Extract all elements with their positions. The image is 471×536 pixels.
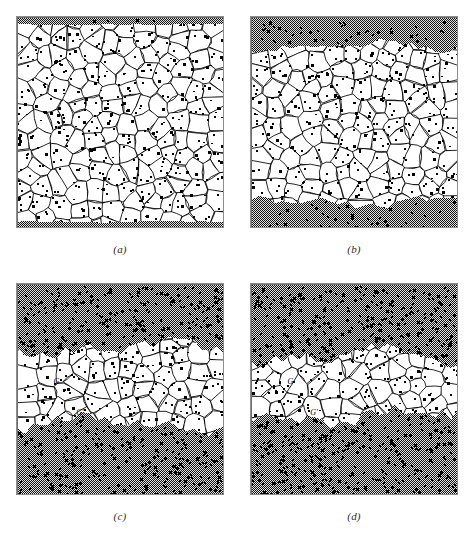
precipitate-dot <box>59 36 62 39</box>
precipitate-dot <box>102 188 105 191</box>
matrix-speckle <box>345 353 347 355</box>
precipitate-dot <box>59 63 61 65</box>
precipitate-dot <box>126 110 129 112</box>
matrix-speckle <box>140 321 142 323</box>
matrix-speckle <box>75 311 77 313</box>
matrix-speckle <box>259 433 261 435</box>
matrix-speckle <box>223 319 225 322</box>
precipitate-dot <box>359 81 362 84</box>
matrix-speckle <box>337 491 339 493</box>
matrix-speckle <box>319 463 321 465</box>
matrix-speckle <box>319 437 322 440</box>
precipitate-dot <box>58 127 61 129</box>
matrix-speckle <box>215 334 218 337</box>
matrix-speckle <box>266 493 269 495</box>
matrix-speckle <box>315 419 317 421</box>
matrix-speckle <box>292 34 294 36</box>
matrix-speckle <box>448 442 451 445</box>
precipitate-dot <box>217 383 219 385</box>
matrix-speckle <box>317 443 319 445</box>
matrix-speckle <box>295 472 297 474</box>
precipitate-dot <box>359 151 361 153</box>
matrix-speckle <box>327 216 329 218</box>
precipitate-dot <box>108 178 110 180</box>
precipitate-dot <box>347 165 350 168</box>
matrix-speckle <box>379 217 381 219</box>
precipitate-dot <box>180 127 182 129</box>
matrix-speckle <box>390 28 392 30</box>
precipitate-dot <box>134 219 137 222</box>
precipitate-dot <box>223 408 224 410</box>
matrix-speckle <box>366 319 369 322</box>
matrix-speckle <box>264 308 266 310</box>
precipitate-dot <box>354 162 356 164</box>
matrix-speckle <box>402 318 404 320</box>
precipitate-dot <box>455 93 457 95</box>
precipitate-dot <box>131 120 134 123</box>
panel-caption-b: (b) <box>250 243 458 255</box>
matrix-speckle <box>175 473 177 475</box>
matrix-speckle <box>113 430 116 433</box>
precipitate-dot <box>384 88 386 90</box>
matrix-speckle <box>438 474 441 477</box>
precipitate-dot <box>29 196 31 198</box>
matrix-speckle <box>217 308 219 310</box>
matrix-speckle <box>432 298 434 300</box>
precipitate-dot <box>84 409 86 411</box>
matrix-speckle <box>430 319 433 322</box>
matrix-speckle <box>253 338 255 340</box>
precipitate-dot <box>155 54 157 55</box>
precipitate-dot <box>404 381 406 382</box>
precipitate-dot <box>57 114 60 117</box>
matrix-speckle <box>51 293 53 295</box>
precipitate-dot <box>316 157 318 159</box>
matrix-speckle <box>29 488 31 490</box>
precipitate-dot <box>143 147 146 150</box>
precipitate-dot <box>298 107 300 109</box>
matrix-speckle <box>106 325 109 328</box>
precipitate-dot <box>395 350 397 352</box>
matrix-speckle <box>28 458 30 460</box>
matrix-speckle <box>72 318 74 320</box>
matrix-speckle <box>259 361 261 363</box>
matrix-speckle <box>206 326 208 328</box>
precipitate-dot <box>268 380 270 382</box>
matrix-speckle <box>299 293 302 296</box>
precipitate-dot <box>269 148 271 150</box>
precipitate-dot <box>146 180 149 182</box>
precipitate-dot <box>256 120 258 122</box>
matrix-speckle <box>59 484 62 487</box>
precipitate-dot <box>317 371 319 373</box>
matrix-speckle <box>340 301 342 303</box>
precipitate-dot <box>223 143 224 145</box>
precipitate-dot <box>24 389 26 391</box>
matrix-speckle <box>153 20 155 22</box>
precipitate-dot <box>280 94 282 96</box>
matrix-speckle <box>339 22 341 24</box>
matrix-speckle <box>265 344 267 346</box>
precipitate-dot <box>391 182 393 184</box>
matrix-speckle <box>270 345 272 347</box>
matrix-speckle <box>181 465 183 467</box>
matrix-speckle <box>403 307 405 309</box>
precipitate-dot <box>97 188 99 189</box>
matrix-speckle <box>126 493 128 495</box>
precipitate-dot <box>200 146 202 147</box>
matrix-speckle <box>321 346 323 348</box>
matrix-speckle <box>65 459 68 462</box>
matrix-speckle <box>66 302 68 304</box>
matrix-speckle <box>153 473 156 476</box>
matrix-speckle <box>311 459 313 461</box>
precipitate-dot <box>63 71 65 73</box>
matrix-speckle <box>223 485 224 487</box>
precipitate-dot <box>143 494 145 495</box>
precipitate-dot <box>281 196 283 197</box>
matrix-speckle <box>108 426 110 428</box>
precipitate-dot <box>147 128 149 130</box>
precipitate-dot <box>273 385 275 387</box>
matrix-speckle <box>400 335 402 337</box>
matrix-speckle <box>302 320 304 322</box>
precipitate-dot <box>358 181 361 184</box>
precipitate-dot <box>298 400 301 403</box>
matrix-speckle <box>18 301 20 303</box>
